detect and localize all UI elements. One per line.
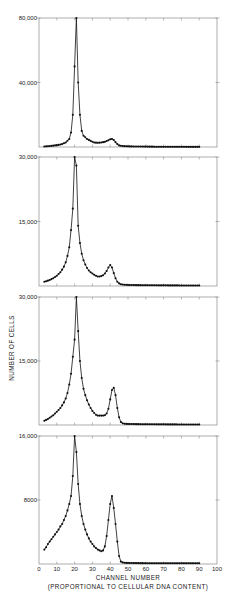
data-point — [61, 404, 63, 406]
data-point — [122, 422, 124, 424]
data-point — [106, 412, 108, 414]
data-point — [122, 283, 124, 285]
data-point — [56, 275, 58, 277]
data-point — [114, 141, 116, 143]
data-point — [66, 509, 68, 511]
data-point — [74, 65, 76, 67]
data-point — [88, 537, 90, 539]
data-point — [65, 261, 67, 263]
data-point — [111, 389, 113, 391]
data-point — [58, 273, 60, 275]
data-point — [43, 145, 45, 147]
data-point — [125, 284, 127, 286]
data-point — [52, 414, 54, 416]
data-point — [72, 475, 74, 477]
data-point — [58, 529, 60, 531]
histogram-curve — [44, 157, 199, 286]
y-axis-title: NUMBER OF CELLS — [8, 315, 15, 380]
data-point — [79, 503, 81, 505]
data-point — [116, 541, 118, 543]
data-point — [100, 275, 102, 277]
panel2-ytick-top: 30,000 — [19, 154, 38, 160]
x-tick-label: 20 — [71, 566, 78, 572]
data-point — [120, 421, 122, 423]
data-point — [77, 225, 79, 227]
data-point — [54, 533, 56, 535]
data-point — [90, 271, 92, 273]
data-point — [54, 276, 56, 278]
data-point — [54, 144, 56, 146]
data-point — [88, 139, 90, 141]
data-point — [113, 272, 115, 274]
x-tick-label: 60 — [142, 566, 149, 572]
histogram-curve — [44, 297, 199, 425]
data-point — [102, 549, 104, 551]
data-point — [123, 562, 125, 564]
data-point — [59, 143, 61, 145]
data-point — [77, 483, 79, 485]
data-point — [47, 418, 49, 420]
data-point — [111, 495, 113, 497]
data-point — [54, 412, 56, 414]
data-point — [63, 401, 65, 403]
panel3-ytick-mid: 15,000 — [19, 358, 38, 364]
data-point — [59, 407, 61, 409]
data-point — [95, 275, 97, 277]
data-point — [45, 546, 47, 548]
data-point — [104, 414, 106, 416]
data-point — [59, 525, 61, 527]
data-point — [50, 538, 52, 540]
data-point — [79, 242, 81, 244]
data-point — [81, 515, 83, 517]
data-point — [74, 156, 76, 158]
data-point — [107, 139, 109, 141]
data-point — [114, 523, 116, 525]
data-point — [65, 397, 67, 399]
data-point — [116, 143, 118, 145]
data-point — [123, 423, 125, 425]
x-tick-labels: 0102030405060708090100 — [37, 566, 222, 572]
x-axis-subtitle: (PROPORTIONAL TO CELLULAR DNA CONTENT) — [48, 583, 209, 591]
data-point — [82, 259, 84, 261]
data-point — [97, 142, 99, 144]
data-point — [47, 543, 49, 545]
data-point — [106, 270, 108, 272]
data-point — [75, 165, 77, 167]
data-point — [118, 555, 120, 557]
histogram-panel-2 — [37, 156, 220, 287]
x-tick-label: 50 — [125, 566, 132, 572]
panel1-ytick-mid: 40,000 — [19, 80, 38, 86]
data-point — [61, 269, 63, 271]
data-point — [113, 387, 115, 389]
data-point — [43, 281, 45, 283]
data-point — [95, 547, 97, 549]
data-point — [111, 266, 113, 268]
data-point — [91, 543, 93, 545]
data-point — [50, 415, 52, 417]
data-point — [66, 255, 68, 257]
data-point — [52, 536, 54, 538]
x-tick-label: 30 — [89, 566, 96, 572]
data-point — [116, 407, 118, 409]
data-point — [52, 145, 54, 147]
histogram-panel-4 — [37, 435, 220, 564]
panel-frame — [39, 436, 217, 564]
data-point — [123, 145, 125, 147]
data-point — [45, 145, 47, 147]
data-point — [120, 145, 122, 147]
data-point — [93, 274, 95, 276]
data-point — [75, 296, 77, 298]
x-tick-label: 90 — [196, 566, 203, 572]
data-point — [81, 377, 83, 379]
data-point — [90, 407, 92, 409]
data-point — [120, 283, 122, 285]
data-point — [68, 246, 70, 248]
data-point — [86, 399, 88, 401]
panel1-ytick-top: 80,000 — [19, 15, 38, 21]
data-point — [104, 272, 106, 274]
x-tick-label: 0 — [37, 566, 41, 572]
panel3-ytick-top: 30,000 — [19, 294, 38, 300]
data-point — [123, 284, 125, 286]
data-point — [84, 136, 86, 138]
data-point — [45, 419, 47, 421]
